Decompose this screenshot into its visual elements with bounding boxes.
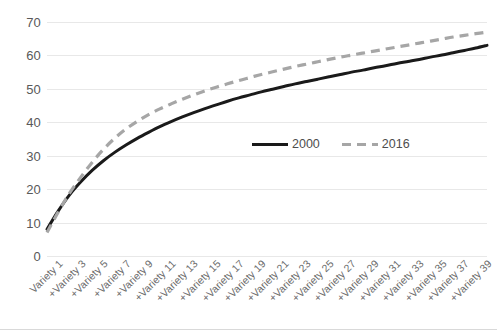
x-axis: Variety 1+Variety 3+Variety 5+Variety 7+… bbox=[47, 258, 487, 331]
y-tick-label: 40 bbox=[0, 116, 41, 129]
line-series-2016 bbox=[47, 32, 487, 233]
legend-entry-2000[interactable]: 2000 bbox=[252, 138, 320, 151]
legend-swatch-2000 bbox=[252, 143, 288, 146]
legend-swatch-2016 bbox=[342, 143, 378, 146]
y-axis: 010203040506070 bbox=[0, 22, 41, 256]
y-tick-label: 30 bbox=[0, 149, 41, 162]
y-tick-label: 20 bbox=[0, 183, 41, 196]
y-tick-label: 10 bbox=[0, 216, 41, 229]
legend-entry-2016[interactable]: 2016 bbox=[342, 138, 410, 151]
legend: 2000 2016 bbox=[252, 138, 410, 151]
y-tick-label: 60 bbox=[0, 49, 41, 62]
legend-label-2016: 2016 bbox=[382, 138, 410, 151]
y-tick-label: 0 bbox=[0, 250, 41, 263]
chart-container: 010203040506070 Variety 1+Variety 3+Vari… bbox=[0, 0, 497, 331]
y-tick-label: 70 bbox=[0, 16, 41, 29]
legend-label-2000: 2000 bbox=[292, 138, 320, 151]
y-tick-label: 50 bbox=[0, 82, 41, 95]
gridline bbox=[47, 256, 487, 257]
bottom-divider bbox=[0, 329, 497, 330]
